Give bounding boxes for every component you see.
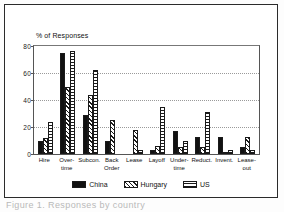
y-tick-mark [31, 154, 34, 155]
x-tick-label: Reduct. [191, 157, 214, 165]
bar-group [214, 46, 237, 154]
legend-swatch-us [183, 181, 197, 188]
bar-group [57, 46, 80, 154]
x-tick-label: Lease [123, 157, 146, 165]
y-tick-label: 80 [23, 43, 31, 50]
figure-frame: % of Responses 020406080 HireOver- timeS… [4, 4, 278, 198]
y-axis-label: % of Responses [36, 32, 88, 39]
bar-hungary [110, 120, 115, 154]
legend-label: Hungary [141, 181, 167, 188]
plot-area: 020406080 [33, 45, 260, 155]
bar-us [138, 150, 143, 154]
x-tick-label: Layoff [146, 157, 169, 165]
bar-us [205, 112, 210, 154]
x-tick-label: Lease- out [236, 157, 259, 172]
x-tick-label: Under- time [168, 157, 191, 172]
legend-swatch-china [72, 181, 86, 188]
bar-group [169, 46, 192, 154]
y-tick-label: 20 [23, 124, 31, 131]
y-tick-label: 0 [27, 151, 31, 158]
x-tick-label: Invent. [213, 157, 236, 165]
x-tick-label: Hire [33, 157, 56, 165]
legend-item: Hungary [124, 181, 167, 188]
figure-container: % of Responses 020406080 HireOver- timeS… [0, 0, 284, 212]
bar-us [70, 51, 75, 154]
figure-caption: Figure 1. Responses by country [6, 200, 278, 210]
bar-us [93, 70, 98, 154]
bar-us [183, 141, 188, 155]
bar-group [79, 46, 102, 154]
bar-us [228, 150, 233, 154]
bar-group [34, 46, 57, 154]
legend-item: China [72, 181, 107, 188]
bar-us [250, 150, 255, 154]
y-tick-label: 40 [23, 97, 31, 104]
bar-us [48, 122, 53, 154]
chart-legend: ChinaHungaryUS [5, 181, 277, 188]
x-tick-label: Over- time [56, 157, 79, 172]
legend-label: US [200, 181, 210, 188]
legend-item: US [183, 181, 210, 188]
bar-group [147, 46, 170, 154]
bar-group [102, 46, 125, 154]
bar-group [237, 46, 260, 154]
bar-us [160, 107, 165, 154]
legend-label: China [89, 181, 107, 188]
x-tick-label: Subcon. [78, 157, 101, 165]
legend-swatch-hungary [124, 181, 138, 188]
bar-group [192, 46, 215, 154]
bar-group [124, 46, 147, 154]
x-tick-label: Back Order [101, 157, 124, 172]
y-tick-label: 60 [23, 70, 31, 77]
